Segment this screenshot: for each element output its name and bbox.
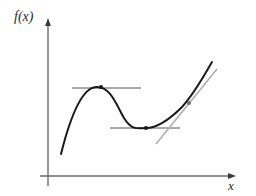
calculus-tangent-figure: f(x) x bbox=[0, 0, 256, 196]
y-axis-arrowhead bbox=[45, 18, 51, 26]
inflection-point bbox=[187, 101, 191, 105]
local-maximum-point bbox=[99, 85, 103, 89]
figure-canvas bbox=[0, 0, 256, 196]
local-minimum-point bbox=[144, 126, 148, 130]
x-axis-label: x bbox=[228, 179, 234, 192]
axes-group bbox=[40, 18, 236, 186]
y-axis-label: f(x) bbox=[14, 10, 33, 24]
tangent-at-inflection-line bbox=[156, 69, 217, 144]
function-curve bbox=[61, 62, 212, 154]
